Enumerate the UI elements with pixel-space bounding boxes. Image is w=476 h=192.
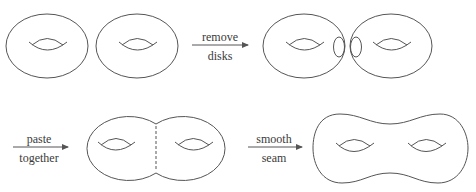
- step-smooth-seam-bottom: seam: [246, 152, 302, 164]
- removed-disk-a: [334, 37, 345, 57]
- torus-b-disk-removed: [350, 14, 432, 78]
- step-remove-disks-bottom: disks: [192, 50, 248, 62]
- genus-two-surface: [313, 114, 468, 183]
- step-paste-together-bottom: together: [10, 152, 68, 164]
- diagram-canvas: [0, 0, 476, 192]
- torus-b: [96, 14, 178, 78]
- torus-a: [6, 14, 88, 78]
- step-paste-together-top: paste: [10, 133, 68, 145]
- step-smooth-seam-top: smooth: [246, 133, 302, 145]
- step-remove-disks-top: remove: [192, 31, 248, 43]
- removed-disk-b: [351, 37, 362, 57]
- pasted-tori: [87, 117, 225, 181]
- torus-a-disk-removed: [263, 14, 345, 78]
